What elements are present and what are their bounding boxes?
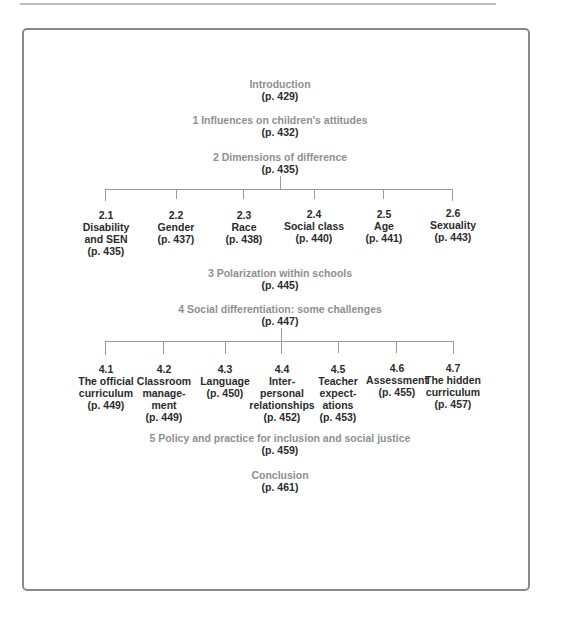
- node-2-1: 2.1 Disability and SEN (p. 435): [66, 209, 146, 257]
- node-section-5: 5 Policy and practice for inclusion and …: [280, 432, 541, 456]
- node-title-line: Race: [204, 221, 284, 233]
- node-page: (p. 445): [208, 279, 352, 291]
- node-title-line: curriculum: [413, 386, 493, 398]
- node-title-line: ations: [298, 399, 378, 411]
- node-2-4: 2.4 Social class (p. 440): [274, 208, 354, 244]
- node-page: (p. 441): [344, 232, 424, 244]
- node-page: (p. 459): [150, 444, 411, 456]
- connector-drop: [105, 341, 106, 355]
- node-page: (p. 457): [413, 398, 493, 410]
- node-number: 2.5: [344, 208, 424, 220]
- node-label: 1 Influences on children's attitudes: [192, 114, 367, 126]
- connector-drop: [396, 341, 397, 353]
- node-section-2: 2 Dimensions of difference (p. 435): [280, 151, 414, 175]
- node-page: (p. 440): [274, 232, 354, 244]
- connector-drop: [176, 189, 177, 199]
- node-2-5: 2.5 Age (p. 441): [344, 208, 424, 244]
- connector-drop: [338, 341, 339, 353]
- node-title-line: Age: [344, 220, 424, 232]
- node-label: 5 Policy and practice for inclusion and …: [150, 432, 411, 444]
- node-number: 2.3: [204, 209, 284, 221]
- node-2-3: 2.3 Race (p. 438): [204, 209, 284, 245]
- connector-drop: [163, 341, 164, 354]
- node-2-6: 2.6 Sexuality (p. 443): [413, 207, 493, 243]
- node-page: (p. 438): [204, 233, 284, 245]
- node-number: 2.4: [274, 208, 354, 220]
- connector-drop: [383, 189, 384, 199]
- node-page: (p. 429): [249, 90, 310, 102]
- node-number: 2.6: [413, 207, 493, 219]
- node-page: (p. 453): [298, 411, 378, 423]
- node-page: (p. 443): [413, 231, 493, 243]
- node-4-7: 4.7 The hidden curriculum (p. 457): [413, 362, 493, 410]
- top-rule: [20, 3, 496, 5]
- node-title-line: The hidden: [413, 374, 493, 386]
- node-conclusion: Conclusion (p. 461): [280, 469, 337, 493]
- node-page: (p. 435): [66, 245, 146, 257]
- node-label: Introduction: [249, 78, 310, 90]
- node-title-line: ment: [124, 399, 204, 411]
- node-title-line: Disability: [66, 221, 146, 233]
- connector-drop: [225, 341, 226, 354]
- node-section-1: 1 Influences on children's attitudes (p.…: [280, 114, 455, 138]
- connector-bar: [105, 341, 454, 342]
- node-page: (p. 432): [192, 126, 367, 138]
- node-label: 3 Polarization within schools: [208, 267, 352, 279]
- connector-drop: [314, 189, 315, 199]
- node-number: 2.1: [66, 209, 146, 221]
- node-title-line: Sexuality: [413, 219, 493, 231]
- node-label: 2 Dimensions of difference: [213, 151, 347, 163]
- node-page: (p. 435): [213, 163, 347, 175]
- connector-stem: [280, 176, 281, 189]
- node-title-line: Social class: [274, 220, 354, 232]
- connector-drop: [452, 189, 453, 201]
- connector-drop: [105, 189, 106, 201]
- node-title-line: and SEN: [66, 233, 146, 245]
- node-page: (p. 461): [251, 481, 308, 493]
- connector-drop: [243, 189, 244, 199]
- node-label: 4 Social differentiation: some challenge…: [178, 303, 382, 315]
- node-label: Conclusion: [251, 469, 308, 481]
- node-page: (p. 449): [124, 411, 204, 423]
- node-section-3: 3 Polarization within schools (p. 445): [280, 267, 424, 291]
- connector-bar: [105, 189, 453, 190]
- connector-drop: [453, 341, 454, 354]
- node-introduction: Introduction (p. 429): [280, 78, 341, 102]
- node-section-4: 4 Social differentiation: some challenge…: [280, 303, 484, 327]
- node-number: 4.7: [413, 362, 493, 374]
- node-page: (p. 447): [178, 315, 382, 327]
